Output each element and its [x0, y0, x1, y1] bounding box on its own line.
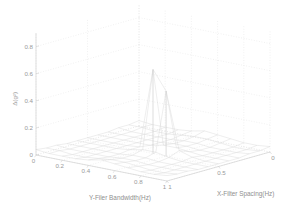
tick-label: 0.6	[108, 173, 117, 180]
tick-label: 0.8	[24, 43, 33, 50]
tick-label: 0.8	[134, 178, 143, 185]
tick-label: 1	[168, 183, 172, 190]
y-axis-title: Y-Filer Bandwidth(Hz)	[89, 194, 151, 202]
figure-canvas: 00.20.40.60.800.20.40.60.8110.50 Y-Filer…	[0, 0, 281, 211]
tick-label: 0	[32, 157, 36, 164]
tick-label: 0.4	[82, 167, 91, 174]
tick-label: 0.2	[55, 162, 64, 169]
z-axis-title: Δ(g²)	[11, 92, 18, 106]
tick-labels: 00.20.40.60.800.20.40.60.8110.50	[24, 43, 275, 190]
tick-label: 0.5	[217, 169, 226, 176]
tick-label: 0.4	[24, 97, 33, 104]
tick-label: 1	[163, 183, 167, 190]
mesh-surface	[36, 69, 270, 175]
x-axis-title: X-Filter Spacing(Hz)	[217, 190, 275, 198]
tick-label: 0.2	[24, 124, 33, 131]
tick-label: 0.6	[24, 70, 33, 77]
surface-plot: 00.20.40.60.800.20.40.60.8110.50 Y-Filer…	[0, 0, 281, 211]
tick-label: 0	[271, 154, 275, 161]
